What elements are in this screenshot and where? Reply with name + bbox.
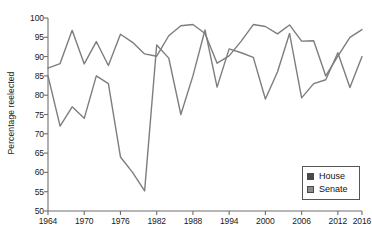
legend-swatch-senate	[307, 186, 314, 193]
legend-swatch-house	[307, 173, 314, 180]
x-axis-tick-marks	[48, 211, 362, 215]
legend-item-house: House	[307, 170, 353, 183]
plot-area	[0, 0, 372, 249]
reelection-rate-line-chart: Percentage reelected 1009590858075706560…	[0, 0, 372, 249]
legend-label-house: House	[319, 172, 345, 181]
legend-item-senate: Senate	[307, 183, 353, 196]
y-axis-tick-marks	[44, 18, 48, 211]
chart-legend: House Senate	[302, 166, 360, 200]
legend-label-senate: Senate	[319, 185, 348, 194]
